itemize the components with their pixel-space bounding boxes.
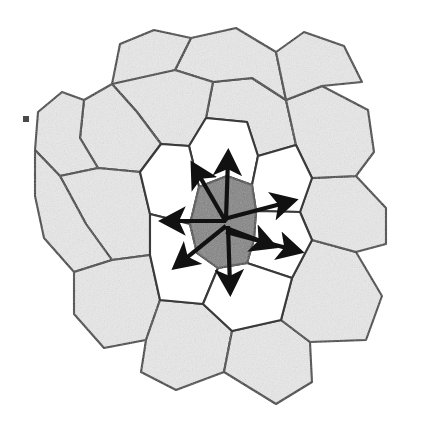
speck-mark bbox=[23, 116, 29, 122]
cell-tessellation-diagram bbox=[0, 0, 434, 422]
arrow-north bbox=[226, 166, 228, 219]
arrow-south bbox=[228, 226, 230, 279]
figure-root bbox=[0, 0, 434, 422]
